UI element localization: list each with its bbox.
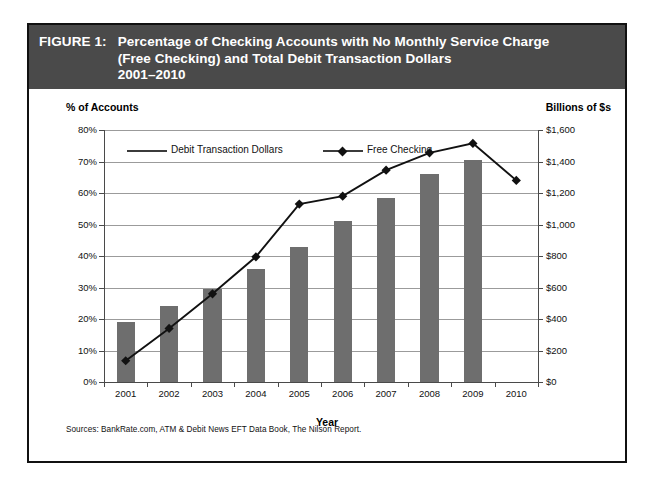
source-note: Sources: BankRate.com, ATM & Debit News … xyxy=(66,425,361,434)
figure-title-line-2: (Free Checking) and Total Debit Transact… xyxy=(118,51,550,68)
figure-frame: FIGURE 1: Percentage of Checking Account… xyxy=(27,23,627,463)
figure-title-banner: FIGURE 1: Percentage of Checking Account… xyxy=(29,25,625,89)
chart-plot-area: % of Accounts Billions of $s 0%10%20%30%… xyxy=(29,89,625,465)
data-point-marker xyxy=(338,192,347,201)
legend-label: Debit Transaction Dollars xyxy=(171,144,283,155)
line-series-debit-transaction-dollars xyxy=(29,89,625,465)
legend-line-swatch xyxy=(127,150,167,152)
debit-line-markers xyxy=(121,139,521,366)
data-point-marker xyxy=(382,166,391,175)
figure-title-line-1: Percentage of Checking Accounts with No … xyxy=(118,34,550,51)
figure-label: FIGURE 1: xyxy=(39,34,118,84)
debit-line-path xyxy=(126,143,517,360)
figure-title-line-3: 2001–2010 xyxy=(118,67,550,84)
legend-label: Free Checking xyxy=(367,144,432,155)
figure-title: Percentage of Checking Accounts with No … xyxy=(118,34,550,84)
